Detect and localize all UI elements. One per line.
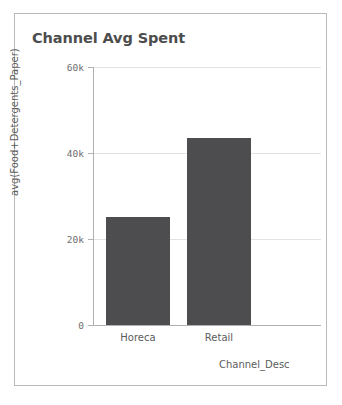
plot-area bbox=[93, 67, 321, 325]
x-tick-label-retail: Retail bbox=[179, 332, 259, 343]
y-tick-mark-20k bbox=[88, 239, 93, 240]
y-axis-title: avg(Food+Detergents_Paper) bbox=[9, 48, 20, 196]
y-tick-mark-60k bbox=[88, 67, 93, 68]
chart-card: Channel Avg Spent 60k 40k 20k 0 avg(Food… bbox=[14, 13, 327, 386]
bar-horeca[interactable] bbox=[106, 217, 170, 325]
y-tick-label-20k: 20k bbox=[67, 234, 84, 245]
y-tick-label-60k: 60k bbox=[67, 62, 84, 73]
y-tick-label-40k: 40k bbox=[67, 148, 84, 159]
bar-retail[interactable] bbox=[187, 138, 251, 326]
x-axis-line bbox=[93, 325, 321, 326]
y-tick-label-0: 0 bbox=[78, 320, 84, 331]
chart-title: Channel Avg Spent bbox=[32, 30, 185, 46]
y-axis-line bbox=[93, 67, 94, 326]
x-axis-title: Channel_Desc bbox=[219, 359, 290, 370]
y-tick-mark-40k bbox=[88, 153, 93, 154]
y-tick-mark-0 bbox=[88, 325, 93, 326]
gridline-60k bbox=[93, 67, 321, 68]
x-tick-label-horeca: Horeca bbox=[98, 332, 178, 343]
